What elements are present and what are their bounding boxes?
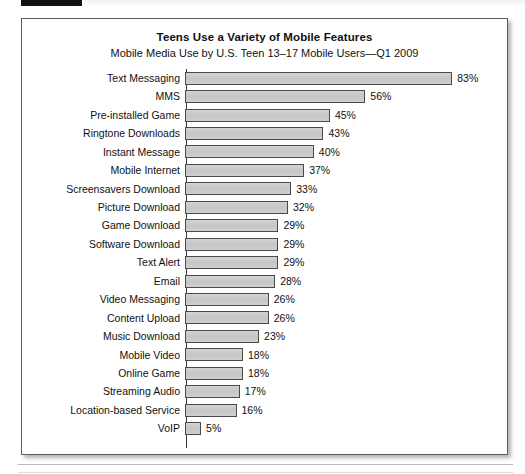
bar-track: 29%: [185, 235, 507, 253]
bar-row: Music Download23%: [22, 327, 507, 345]
bar: [185, 348, 243, 361]
page-rule-bottom: [18, 472, 513, 473]
bar-row: Text Alert29%: [22, 253, 507, 271]
plot-area: Text Messaging83%MMS56%Pre-installed Gam…: [22, 69, 507, 448]
bar-track: 29%: [185, 253, 507, 271]
bar-value-label: 26%: [274, 313, 295, 324]
bar-value-label: 18%: [248, 350, 269, 361]
bar: [185, 330, 259, 343]
bar-value-label: 32%: [293, 202, 314, 213]
bar-value-label: 5%: [206, 423, 221, 434]
bar-track: 17%: [185, 382, 507, 400]
bar-row: Video Messaging26%: [22, 290, 507, 308]
bar-track: 37%: [185, 161, 507, 179]
bar-value-label: 83%: [457, 73, 478, 84]
bar: [185, 422, 201, 435]
bar: [185, 275, 275, 288]
bar-row: Game Download29%: [22, 217, 507, 235]
bar-value-label: 26%: [274, 294, 295, 305]
bar-track: 33%: [185, 180, 507, 198]
category-label: Video Messaging: [22, 294, 185, 305]
bar-row: Ringtone Downloads43%: [22, 124, 507, 142]
bar-value-label: 18%: [248, 368, 269, 379]
bar: [185, 256, 278, 269]
bar: [185, 201, 288, 214]
chart-subtitle: Mobile Media Use by U.S. Teen 13–17 Mobi…: [22, 47, 507, 59]
bar: [185, 127, 323, 140]
category-label: Text Alert: [22, 257, 185, 268]
scan-top-smudge: [84, 0, 525, 7]
bar-track: 29%: [185, 217, 507, 235]
bar-value-label: 29%: [283, 239, 304, 250]
bar-track: 40%: [185, 143, 507, 161]
bar: [185, 311, 269, 324]
bar-track: 56%: [185, 87, 507, 105]
bar: [185, 145, 314, 158]
bar: [185, 90, 365, 103]
bar-rows-container: Text Messaging83%MMS56%Pre-installed Gam…: [22, 69, 507, 438]
category-label: VoIP: [22, 423, 185, 434]
category-label: Email: [22, 276, 185, 287]
bar: [185, 293, 269, 306]
bar-row: Streaming Audio17%: [22, 382, 507, 400]
category-label: Content Upload: [22, 313, 185, 324]
bar-track: 18%: [185, 364, 507, 382]
bar: [185, 109, 330, 122]
bar-row: Picture Download32%: [22, 198, 507, 216]
bar: [185, 404, 237, 417]
category-label: Online Game: [22, 368, 185, 379]
bar-track: 18%: [185, 346, 507, 364]
bar-value-label: 23%: [264, 331, 285, 342]
bar-track: 28%: [185, 272, 507, 290]
figure-frame: Teens Use a Variety of Mobile Features M…: [21, 18, 508, 455]
bar: [185, 164, 304, 177]
bar-value-label: 43%: [328, 128, 349, 139]
chart-title: Teens Use a Variety of Mobile Features: [22, 31, 507, 43]
bar-value-label: 28%: [280, 276, 301, 287]
bar-value-label: 17%: [245, 386, 266, 397]
bar-row: Content Upload26%: [22, 309, 507, 327]
bar-value-label: 29%: [283, 220, 304, 231]
category-label: Streaming Audio: [22, 386, 185, 397]
category-label: Instant Message: [22, 147, 185, 158]
bar: [185, 238, 278, 251]
category-label: MMS: [22, 91, 185, 102]
bar-value-label: 56%: [370, 91, 391, 102]
scan-black-bar: [21, 0, 82, 6]
category-label: Location-based Service: [22, 405, 185, 416]
bar-value-label: 45%: [335, 110, 356, 121]
bar-row: Instant Message40%: [22, 143, 507, 161]
category-label: Music Download: [22, 331, 185, 342]
category-label: Software Download: [22, 239, 185, 250]
bar: [185, 72, 452, 85]
category-label: Picture Download: [22, 202, 185, 213]
bar: [185, 219, 278, 232]
bar-row: Screensavers Download33%: [22, 180, 507, 198]
bar-value-label: 33%: [296, 184, 317, 195]
bar-row: Mobile Internet37%: [22, 161, 507, 179]
bar-track: 83%: [185, 69, 507, 87]
bar-track: 23%: [185, 327, 507, 345]
bar-value-label: 29%: [283, 257, 304, 268]
bar-track: 32%: [185, 198, 507, 216]
category-label: Mobile Video: [22, 350, 185, 361]
category-label: Ringtone Downloads: [22, 128, 185, 139]
page-rule-top: [18, 464, 513, 465]
bar-track: 26%: [185, 290, 507, 308]
category-label: Pre-installed Game: [22, 110, 185, 121]
category-label: Text Messaging: [22, 73, 185, 84]
bar-row: MMS56%: [22, 87, 507, 105]
bar-track: 45%: [185, 106, 507, 124]
category-label: Mobile Internet: [22, 165, 185, 176]
bar-value-label: 40%: [319, 147, 340, 158]
bar-track: 43%: [185, 124, 507, 142]
bar-row: Software Download29%: [22, 235, 507, 253]
bar-track: 5%: [185, 419, 507, 437]
bar-row: Pre-installed Game45%: [22, 106, 507, 124]
bar-track: 26%: [185, 309, 507, 327]
bar-row: Mobile Video18%: [22, 346, 507, 364]
bar: [185, 385, 240, 398]
bar-track: 16%: [185, 401, 507, 419]
bar-row: VoIP5%: [22, 419, 507, 437]
bar-row: Text Messaging83%: [22, 69, 507, 87]
